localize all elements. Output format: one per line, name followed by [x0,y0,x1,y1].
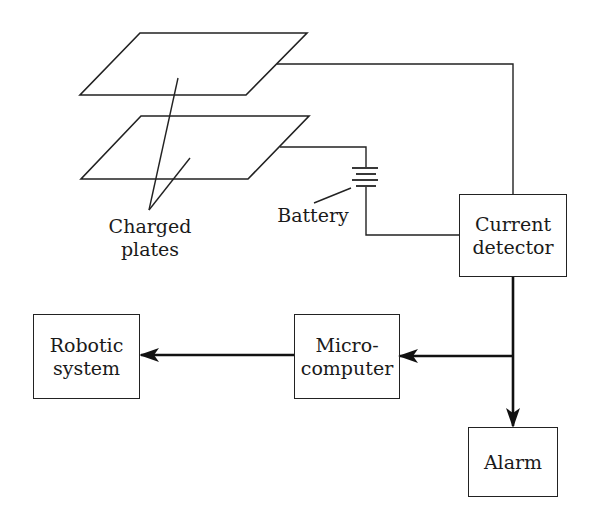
microcomputer-block: Micro- computer [294,314,400,399]
alarm-block: Alarm [468,427,558,497]
microcomputer-label-line1: Micro- [315,334,378,357]
current-detector-block: Current detector [459,194,567,277]
current-detector-label-line1: Current [475,213,551,236]
current-detector-label-line2: detector [472,236,553,259]
battery-detector-wire [366,187,459,235]
alarm-label: Alarm [484,451,542,474]
charged-plates-label: Charged plates [100,215,200,261]
microcomputer-label-line2: computer [301,357,393,380]
lower-plate-wire [280,147,366,167]
battery-icon [352,168,378,186]
charged-plates-label-line2: plates [100,238,200,261]
upper-plate-wire [277,64,513,194]
battery-label: Battery [268,204,358,227]
robotic-system-label-line2: system [53,357,120,380]
battery-leader-line [314,188,351,203]
upper-charged-plate [80,33,307,95]
robotic-system-block: Robotic system [33,314,140,399]
charged-plates-label-line1: Charged [100,215,200,238]
plates-leader-line-upper [149,78,178,210]
lower-charged-plate [81,116,309,179]
robotic-system-label-line1: Robotic [50,334,124,357]
